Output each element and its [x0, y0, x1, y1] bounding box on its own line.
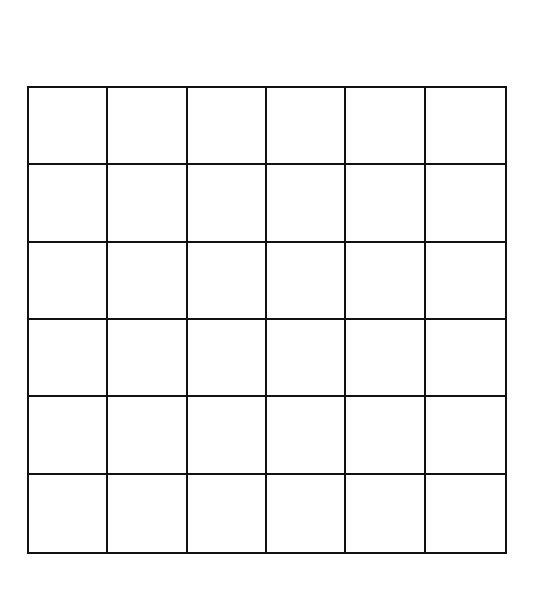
grid-cell: [426, 397, 505, 474]
grid-cell: [29, 397, 108, 474]
grid-cell: [188, 475, 267, 552]
grid-cell: [188, 243, 267, 320]
grid-cell: [267, 88, 346, 165]
grid-cell: [267, 320, 346, 397]
grid-cell: [108, 243, 187, 320]
grid-cell: [29, 475, 108, 552]
square-grid-6x6: [27, 86, 507, 554]
grid-cell: [29, 243, 108, 320]
grid-cell: [188, 88, 267, 165]
grid-cell: [346, 243, 425, 320]
grid-cell: [346, 165, 425, 242]
grid-cell: [108, 320, 187, 397]
grid-cell: [108, 165, 187, 242]
grid-cell: [188, 165, 267, 242]
grid-cell: [108, 475, 187, 552]
grid-cell: [426, 475, 505, 552]
grid-cell: [29, 165, 108, 242]
grid-cell: [29, 88, 108, 165]
grid-cell: [267, 475, 346, 552]
grid-cell: [426, 165, 505, 242]
grid-cell: [108, 88, 187, 165]
grid-cell: [346, 397, 425, 474]
grid-cell: [108, 397, 187, 474]
grid-cell: [188, 397, 267, 474]
grid-cell: [188, 320, 267, 397]
grid-cell: [267, 165, 346, 242]
grid-cell: [426, 88, 505, 165]
grid-cell: [29, 320, 108, 397]
grid-cell: [426, 320, 505, 397]
grid-cell: [426, 243, 505, 320]
grid-cell: [346, 475, 425, 552]
grid-cell: [267, 397, 346, 474]
grid-cell: [346, 320, 425, 397]
grid-cell: [346, 88, 425, 165]
grid-cell: [267, 243, 346, 320]
